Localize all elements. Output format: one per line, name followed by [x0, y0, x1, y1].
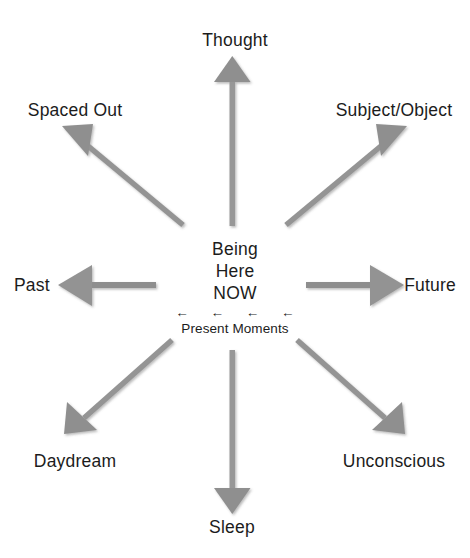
- label-thought: Thought: [202, 30, 268, 50]
- arrow-unconscious: [297, 340, 405, 434]
- label-future: Future: [404, 275, 456, 295]
- arrow-sleep: [214, 350, 251, 514]
- center-text-block: Being Here NOW: [135, 238, 335, 305]
- center-line-being: Being: [135, 238, 335, 260]
- center-line-here: Here: [135, 260, 335, 282]
- present-moments-block: ← ← ← ← Present Moments: [125, 306, 345, 337]
- arrow-spaced-out: [62, 124, 183, 225]
- arrow-thought: [214, 56, 251, 226]
- label-spaced-out: Spaced Out: [28, 100, 122, 120]
- arrow-subject-object: [286, 124, 407, 225]
- diagram-canvas: Thought Spaced Out Subject/Object Past F…: [0, 0, 470, 558]
- label-daydream: Daydream: [34, 451, 116, 471]
- label-sleep: Sleep: [209, 517, 255, 537]
- label-subject-object: Subject/Object: [336, 100, 453, 120]
- center-line-now: NOW: [135, 282, 335, 304]
- arrow-daydream: [64, 340, 172, 434]
- label-unconscious: Unconscious: [343, 451, 445, 471]
- present-moments-arrows-icon: ← ← ← ←: [125, 306, 345, 320]
- present-moments-label: Present Moments: [125, 322, 345, 337]
- label-past: Past: [14, 275, 50, 295]
